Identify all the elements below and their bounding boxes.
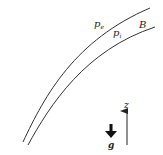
gravity-arrow-icon [105,124,117,138]
pe-label: pe [94,18,104,30]
gravity-label: g [108,140,114,150]
z-axis-label: z [123,100,129,110]
boundary-label: B [138,19,146,30]
membrane-diagram: pe pi B z g [0,0,163,155]
pi-label: pi [113,27,121,39]
